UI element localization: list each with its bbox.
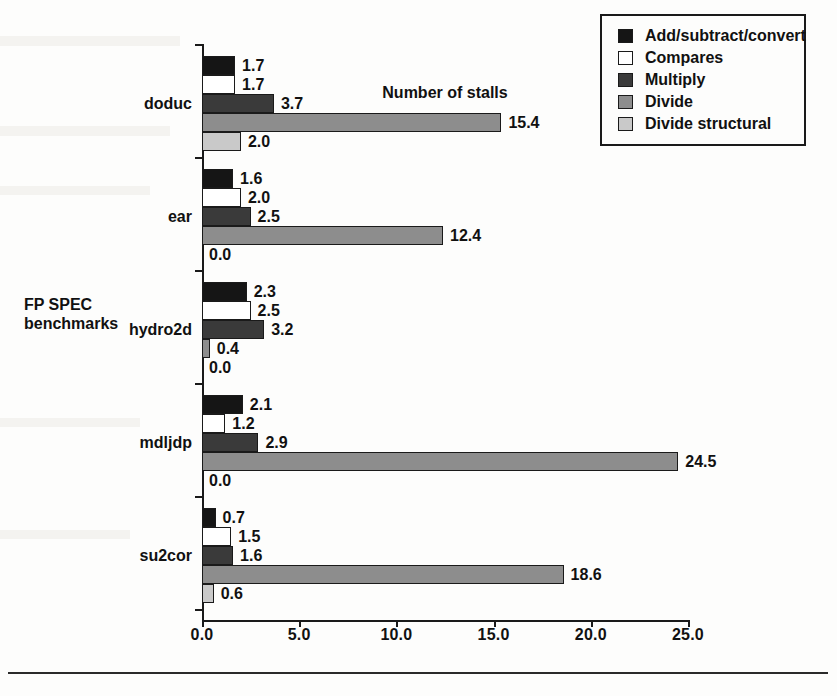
bar [202,414,225,433]
bar-value-label: 18.6 [571,566,602,584]
bar-value-label: 2.0 [248,189,270,207]
category-label-hydro2d: hydro2d [129,321,192,339]
legend-label: Divide [645,93,693,111]
bar-row: 1.2 [202,414,688,433]
legend-label: Multiply [645,71,705,89]
bar-value-label: 1.2 [232,415,254,433]
category-labels: doducearhydro2dmdljdpsu2cor [0,44,202,620]
bar-group: 2.32.53.20.40.0 [202,282,688,377]
bar [202,395,243,414]
y-axis-tick [195,383,202,385]
bar-row: 0.4 [202,339,688,358]
bar [202,565,564,584]
bar [202,188,241,207]
figure-horizontal-bar-chart: FP SPEC benchmarks doducearhydro2dmdljdp… [0,0,837,696]
bar-row: 1.6 [202,546,688,565]
category-label-mdljdp: mdljdp [140,434,192,452]
bar-row: 0.0 [202,245,688,264]
legend-label: Divide structural [645,115,771,133]
bar-group: 1.62.02.512.40.0 [202,169,688,264]
x-axis-tick-label: 10.0 [380,626,412,644]
bar [202,320,264,339]
bar [202,433,258,452]
bar-value-label: 1.5 [238,528,260,546]
bar-value-label: 2.5 [258,302,280,320]
x-axis-tick-label: 20.0 [575,626,607,644]
legend-item: Divide structural [618,113,794,134]
legend: Add/subtract/convertComparesMultiplyDivi… [600,14,806,146]
x-axis-tick-label: 0.0 [191,626,214,644]
legend-item: Compares [618,47,794,68]
legend-item: Multiply [618,69,794,90]
bar-value-label: 1.6 [240,170,262,188]
bar-row: 1.5 [202,527,688,546]
legend-swatch-icon [618,95,633,109]
bar [202,226,443,245]
bar [202,56,235,75]
bar-row: 0.0 [202,358,688,377]
bar-row: 0.7 [202,508,688,527]
bar-row: 2.0 [202,188,688,207]
legend-item: Add/subtract/convert [618,25,794,46]
bar [202,301,251,320]
bar-row: 24.5 [202,452,688,471]
bar-value-label: 2.5 [258,208,280,226]
legend-swatch-icon [618,73,633,87]
bar-value-label: 0.0 [209,359,231,377]
bar-value-label: 2.3 [254,283,276,301]
legend-item: Divide [618,91,794,112]
bar-value-label: 1.7 [242,57,264,75]
bar-value-label: 0.0 [209,472,231,490]
bar-value-label: 0.0 [209,246,231,264]
y-axis-tick [195,270,202,272]
bar [202,169,233,188]
bar-row: 2.1 [202,395,688,414]
x-axis-tick-label: 5.0 [288,626,311,644]
bar-value-label: 0.4 [217,340,239,358]
bar-row: 2.5 [202,207,688,226]
bar-value-label: 2.0 [248,133,270,151]
y-axis-tick [195,496,202,498]
bar-value-label: 0.7 [223,509,245,527]
legend-swatch-icon [618,117,633,131]
bar-value-label: 15.4 [508,114,539,132]
bar-group: 0.71.51.618.60.6 [202,508,688,603]
bar [202,132,241,151]
bar [202,282,247,301]
bar-row: 2.9 [202,433,688,452]
bar-value-label: 1.6 [240,547,262,565]
bar-value-label: 3.2 [271,321,293,339]
bar-value-label: 24.5 [685,453,716,471]
bar [202,546,233,565]
x-axis-tick-label: 25.0 [672,626,704,644]
bar [202,508,216,527]
bar-value-label: 12.4 [450,227,481,245]
bar [202,339,210,358]
bar-row: 2.5 [202,301,688,320]
page-divider-rule [8,672,828,674]
x-axis-line [202,620,690,622]
bar-value-label: 2.9 [265,434,287,452]
legend-label: Add/subtract/convert [645,27,806,45]
bar [202,584,214,603]
bar-row: 0.6 [202,584,688,603]
bar-group: 2.11.22.924.50.0 [202,395,688,490]
category-label-doduc: doduc [144,95,192,113]
bar [202,113,501,132]
bar-row: 0.0 [202,471,688,490]
y-axis-tick [195,157,202,159]
legend-label: Compares [645,49,723,67]
category-label-ear: ear [168,208,192,226]
bar-row: 3.2 [202,320,688,339]
legend-swatch-icon [618,51,633,65]
bar-row: 12.4 [202,226,688,245]
y-axis-tick [195,44,202,46]
bar [202,527,231,546]
bar [202,452,678,471]
bar [202,207,251,226]
category-label-su2cor: su2cor [140,547,192,565]
x-axis-tick-label: 15.0 [478,626,510,644]
y-axis-tick [195,609,202,611]
bar-row: 2.3 [202,282,688,301]
bar-row: 1.6 [202,169,688,188]
